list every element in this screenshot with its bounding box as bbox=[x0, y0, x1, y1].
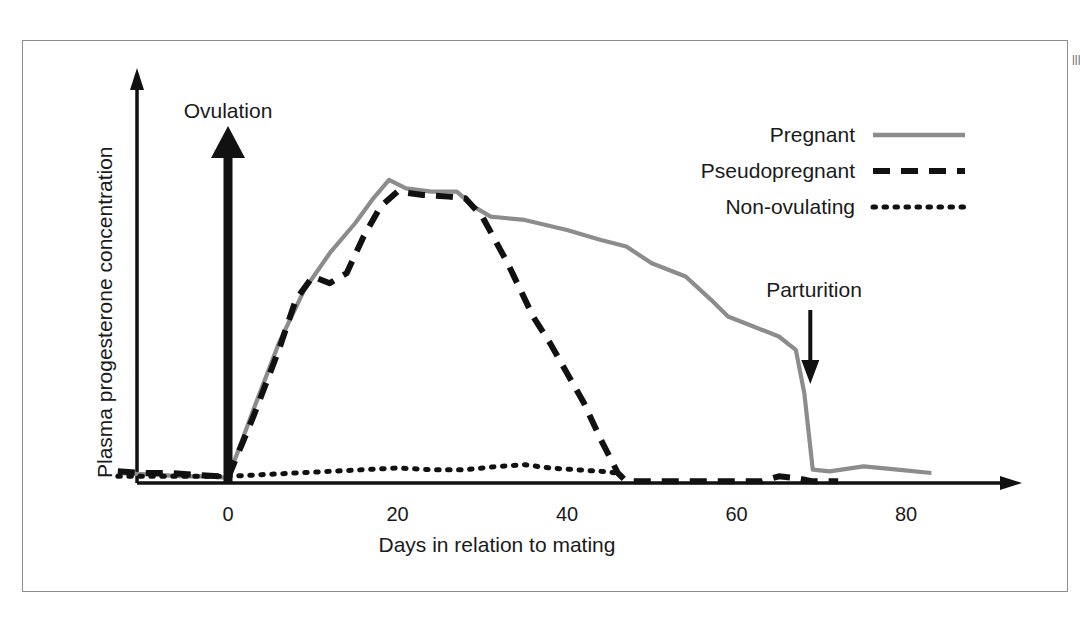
parturition-label: Parturition bbox=[766, 278, 862, 301]
progesterone-line-chart: 020406080 Days in relation to mating Pla… bbox=[0, 0, 1080, 620]
x-tick-label: 80 bbox=[895, 503, 917, 525]
chart-legend: PregnantPseudopregnantNon-ovulating bbox=[701, 123, 965, 218]
legend-label-pregnant: Pregnant bbox=[770, 123, 855, 146]
ovulation-label: Ovulation bbox=[184, 99, 273, 122]
x-tick-label: 40 bbox=[556, 503, 578, 525]
axes-group bbox=[130, 68, 1022, 490]
parturition-arrowhead bbox=[801, 360, 819, 384]
x-tick-label: 0 bbox=[222, 503, 233, 525]
x-tick-label: 60 bbox=[725, 503, 747, 525]
y-axis-arrowhead bbox=[130, 68, 144, 90]
ovulation-arrowhead bbox=[211, 126, 245, 158]
x-axis-label: Days in relation to mating bbox=[379, 533, 616, 556]
parturition-annotation: Parturition bbox=[766, 278, 862, 301]
ovulation-annotation: Ovulation bbox=[184, 99, 273, 122]
legend-label-non-ovulating: Non-ovulating bbox=[725, 195, 855, 218]
legend-label-pseudopregnant: Pseudopregnant bbox=[701, 159, 855, 182]
y-axis-label: Plasma progesterone concentration bbox=[93, 146, 116, 478]
x-tick-label: 20 bbox=[386, 503, 408, 525]
chart-svg: 020406080 Days in relation to mating Pla… bbox=[0, 0, 1080, 620]
x-axis-arrowhead bbox=[1000, 476, 1022, 490]
x-tick-labels: 020406080 bbox=[222, 503, 917, 525]
